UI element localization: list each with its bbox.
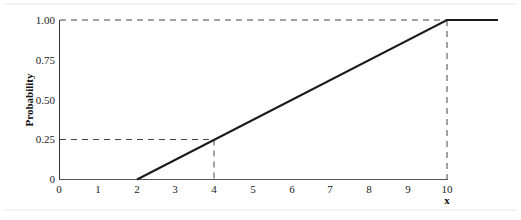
x-axis-title: x	[444, 194, 450, 206]
x-tick-7: 7	[327, 183, 333, 195]
reference-lines	[60, 20, 447, 179]
x-tick-2: 2	[134, 183, 140, 195]
y-tick-0: 0	[50, 173, 56, 185]
x-tick-1: 1	[95, 183, 101, 195]
y-ticks: 0 0.25 0.50 0.75 1.00	[36, 14, 56, 185]
y-axis-title: Probability	[23, 73, 35, 126]
x-ticks: 0 1 2 3 4 5 6 7 8 9 10	[56, 183, 453, 195]
x-tick-6: 6	[289, 183, 295, 195]
cdf-line	[137, 20, 498, 180]
x-tick-4: 4	[211, 183, 217, 195]
x-tick-8: 8	[366, 183, 372, 195]
y-tick-100: 1.00	[36, 14, 56, 26]
y-tick-075: 0.75	[36, 54, 56, 66]
chart-container: Probability 0 0.25 0.50 0.75 1.00 0 1 2 …	[0, 0, 521, 220]
x-tick-0: 0	[56, 183, 62, 195]
y-tick-050: 0.50	[36, 94, 56, 106]
y-tick-025: 0.25	[36, 133, 56, 145]
x-tick-5: 5	[250, 183, 256, 195]
x-tick-9: 9	[405, 183, 411, 195]
x-tick-3: 3	[172, 183, 178, 195]
cdf-chart: Probability 0 0.25 0.50 0.75 1.00 0 1 2 …	[0, 0, 521, 220]
